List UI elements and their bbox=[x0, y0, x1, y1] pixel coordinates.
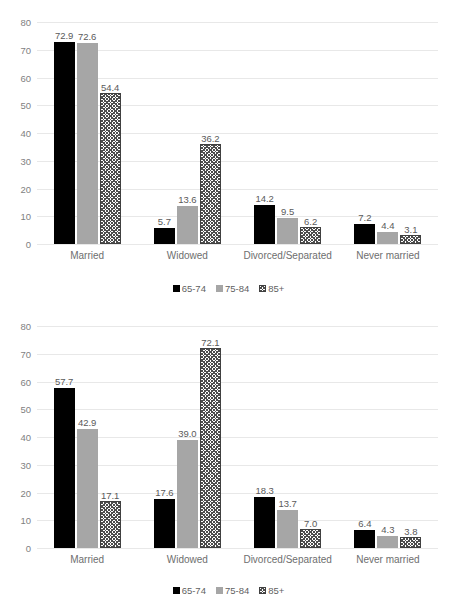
plot-area-bottom: 01020304050607080 57.742.917.117.639.072… bbox=[37, 326, 438, 548]
bar-value-label: 4.4 bbox=[381, 220, 394, 231]
bar-85plus-divorced-separated: 7.0 bbox=[300, 529, 321, 548]
bar-group: 72.972.654.4 bbox=[37, 22, 137, 244]
bar-slot: 3.1 bbox=[400, 22, 421, 244]
bar-value-label: 5.7 bbox=[158, 216, 171, 227]
legend-item-85plus[interactable]: 85+ bbox=[259, 585, 284, 596]
bar-value-label: 54.4 bbox=[101, 82, 120, 93]
y-tick-label: 30 bbox=[20, 155, 31, 166]
x-axis-label-married: Married bbox=[37, 250, 137, 261]
bar-group: 5.713.636.2 bbox=[137, 22, 237, 244]
legend-label: 85+ bbox=[268, 283, 284, 294]
bar-group: 18.313.77.0 bbox=[238, 326, 338, 548]
bar-85plus-married: 54.4 bbox=[100, 93, 121, 244]
bar-slot: 13.7 bbox=[277, 326, 298, 548]
y-tick-label: 20 bbox=[20, 487, 31, 498]
bar-value-label: 14.2 bbox=[255, 193, 274, 204]
x-axis-label-never-married: Never married bbox=[338, 250, 438, 261]
bar-value-label: 17.6 bbox=[155, 487, 174, 498]
bar-85plus-divorced-separated: 6.2 bbox=[300, 227, 321, 244]
bar-value-label: 7.2 bbox=[358, 212, 371, 223]
x-axis-labels-top: MarriedWidowedDivorced/SeparatedNever ma… bbox=[37, 250, 438, 261]
bar-85plus-married: 17.1 bbox=[100, 501, 121, 548]
legend-swatch-icon bbox=[173, 587, 180, 594]
gridline bbox=[37, 244, 438, 245]
x-axis-labels-bottom: MarriedWidowedDivorced/SeparatedNever ma… bbox=[37, 554, 438, 565]
plot-area-top: 01020304050607080 72.972.654.45.713.636.… bbox=[37, 22, 438, 244]
y-tick-label: 60 bbox=[20, 376, 31, 387]
bar-slot: 14.2 bbox=[254, 22, 275, 244]
bar-value-label: 4.3 bbox=[381, 524, 394, 535]
y-tick-label: 40 bbox=[20, 128, 31, 139]
bar-85plus-never-married: 3.1 bbox=[400, 235, 421, 244]
bar-value-label: 18.3 bbox=[255, 485, 274, 496]
y-tick-label: 30 bbox=[20, 459, 31, 470]
bar-group: 7.24.43.1 bbox=[338, 22, 438, 244]
y-tick-label: 10 bbox=[20, 211, 31, 222]
bar-75-84-married: 72.6 bbox=[77, 43, 98, 244]
bar-groups-top: 72.972.654.45.713.636.214.29.56.27.24.43… bbox=[37, 22, 438, 244]
bar-65-74-married: 57.7 bbox=[54, 388, 75, 548]
legend-item-75-84[interactable]: 75-84 bbox=[216, 585, 249, 596]
bar-slot: 72.9 bbox=[54, 22, 75, 244]
bar-slot: 72.1 bbox=[200, 326, 221, 548]
bar-value-label: 42.9 bbox=[78, 417, 97, 428]
legend-item-65-74[interactable]: 65-74 bbox=[173, 585, 206, 596]
y-tick-label: 10 bbox=[20, 515, 31, 526]
legend-swatch-icon bbox=[259, 285, 266, 292]
bar-group: 14.29.56.2 bbox=[238, 22, 338, 244]
y-tick-label: 0 bbox=[26, 543, 31, 554]
chart-top: 01020304050607080 72.972.654.45.713.636.… bbox=[0, 0, 457, 300]
bar-slot: 6.4 bbox=[354, 326, 375, 548]
bar-groups-bottom: 57.742.917.117.639.072.118.313.77.06.44.… bbox=[37, 326, 438, 548]
bar-slot: 39.0 bbox=[177, 326, 198, 548]
bar-75-84-never-married: 4.3 bbox=[377, 536, 398, 548]
bar-slot: 4.3 bbox=[377, 326, 398, 548]
bar-slot: 36.2 bbox=[200, 22, 221, 244]
bar-slot: 4.4 bbox=[377, 22, 398, 244]
y-tick-label: 70 bbox=[20, 44, 31, 55]
legend-label: 75-84 bbox=[225, 585, 249, 596]
bar-value-label: 72.6 bbox=[78, 31, 97, 42]
bar-slot: 6.2 bbox=[300, 22, 321, 244]
figure-page: 01020304050607080 72.972.654.45.713.636.… bbox=[0, 0, 457, 596]
y-tick-label: 0 bbox=[26, 239, 31, 250]
bar-value-label: 6.4 bbox=[358, 518, 371, 529]
bar-value-label: 39.0 bbox=[178, 428, 197, 439]
legend-item-85plus[interactable]: 85+ bbox=[259, 283, 284, 294]
legend-label: 65-74 bbox=[182, 585, 206, 596]
bar-value-label: 3.1 bbox=[404, 224, 417, 235]
bar-slot: 13.6 bbox=[177, 22, 198, 244]
y-tick-label: 50 bbox=[20, 100, 31, 111]
bar-slot: 42.9 bbox=[77, 326, 98, 548]
bar-75-84-never-married: 4.4 bbox=[377, 232, 398, 244]
y-tick-label: 50 bbox=[20, 404, 31, 415]
bar-65-74-divorced-separated: 18.3 bbox=[254, 497, 275, 548]
y-tick-label: 70 bbox=[20, 348, 31, 359]
bar-slot: 54.4 bbox=[100, 22, 121, 244]
bar-75-84-divorced-separated: 9.5 bbox=[277, 218, 298, 244]
bar-65-74-widowed: 5.7 bbox=[154, 228, 175, 244]
gridline bbox=[37, 548, 438, 549]
legend-swatch-icon bbox=[216, 587, 223, 594]
bar-slot: 3.8 bbox=[400, 326, 421, 548]
bar-slot: 5.7 bbox=[154, 22, 175, 244]
bar-slot: 17.1 bbox=[100, 326, 121, 548]
bar-85plus-widowed: 36.2 bbox=[200, 144, 221, 244]
legend-item-65-74[interactable]: 65-74 bbox=[173, 283, 206, 294]
legend-top: 65-7475-8485+ bbox=[0, 283, 457, 294]
bar-65-74-divorced-separated: 14.2 bbox=[254, 205, 275, 244]
x-axis-label-divorced-separated: Divorced/Separated bbox=[238, 554, 338, 565]
bar-slot: 7.2 bbox=[354, 22, 375, 244]
x-axis-label-married: Married bbox=[37, 554, 137, 565]
legend-item-75-84[interactable]: 75-84 bbox=[216, 283, 249, 294]
legend-label: 85+ bbox=[268, 585, 284, 596]
bar-slot: 72.6 bbox=[77, 22, 98, 244]
bar-group: 17.639.072.1 bbox=[137, 326, 237, 548]
bar-value-label: 72.9 bbox=[55, 30, 74, 41]
legend-swatch-icon bbox=[216, 285, 223, 292]
bar-value-label: 72.1 bbox=[201, 337, 220, 348]
bar-75-84-widowed: 13.6 bbox=[177, 206, 198, 244]
y-tick-label: 60 bbox=[20, 72, 31, 83]
bar-65-74-never-married: 6.4 bbox=[354, 530, 375, 548]
legend-bottom: 65-7475-8485+ bbox=[0, 585, 457, 596]
